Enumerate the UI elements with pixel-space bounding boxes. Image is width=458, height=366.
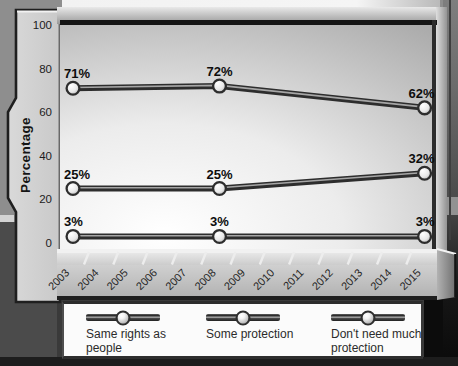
data-point-marker xyxy=(418,101,431,114)
legend-line-marker-icon xyxy=(331,314,405,321)
data-point-label: 3% xyxy=(64,214,83,229)
data-point-marker xyxy=(213,80,226,93)
data-point-label: 3% xyxy=(210,214,229,229)
legend-sphere-icon xyxy=(236,310,251,325)
legend-label: Same rights as people xyxy=(86,327,186,355)
data-point-label: 71% xyxy=(64,66,90,81)
data-point-marker xyxy=(67,82,80,95)
x-axis-bar-endcap xyxy=(437,249,456,300)
x-axis-bar-shadow xyxy=(57,296,437,300)
x-axis-bar-highlight xyxy=(57,249,437,253)
chart-legend: Same rights as people Some protection Do… xyxy=(62,301,423,359)
page-background: 2003200420052006200720082009201020112012… xyxy=(0,0,458,366)
y-tick-label: 20 xyxy=(39,193,52,205)
y-tick-label: 80 xyxy=(39,63,52,75)
plot-panel xyxy=(60,25,432,252)
data-point-marker xyxy=(213,230,226,243)
legend-label: Some protection xyxy=(206,327,330,341)
data-point-marker xyxy=(213,182,226,195)
legend-sphere-icon xyxy=(361,310,376,325)
y-tick-label: 100 xyxy=(33,19,52,31)
legend-line-marker-icon xyxy=(86,314,160,321)
y-tick-label: 0 xyxy=(46,237,52,249)
legend-item-same-rights: Same rights as people xyxy=(86,314,186,355)
data-point-marker xyxy=(418,167,431,180)
data-point-label: 25% xyxy=(64,167,90,182)
data-point-label: 72% xyxy=(206,64,232,79)
panel-frame-right xyxy=(436,7,447,253)
legend-item-some-protection: Some protection xyxy=(206,314,330,341)
data-point-label: 62% xyxy=(409,86,435,101)
data-point-label: 3% xyxy=(416,214,435,229)
legend-sphere-icon xyxy=(116,310,131,325)
panel-border-top xyxy=(60,20,437,25)
y-tick-label: 40 xyxy=(39,150,52,162)
y-tick-label: 60 xyxy=(39,106,52,118)
data-point-marker xyxy=(67,182,80,195)
y-axis-title: Percentage xyxy=(18,117,33,193)
legend-item-dont-need-protection: Don't need much protection xyxy=(331,314,437,355)
data-point-label: 25% xyxy=(206,167,232,182)
y-axis-bar xyxy=(8,10,60,302)
data-point-label: 32% xyxy=(409,151,435,166)
legend-label: Don't need much protection xyxy=(331,327,437,355)
data-point-marker xyxy=(418,230,431,243)
data-point-marker xyxy=(67,230,80,243)
legend-line-marker-icon xyxy=(206,314,280,321)
